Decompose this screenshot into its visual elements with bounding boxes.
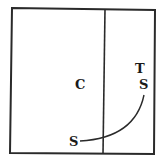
connecting-arc xyxy=(80,95,144,141)
label-t: T xyxy=(135,61,145,76)
diagram-canvas: C T S S xyxy=(0,0,161,164)
label-s-bottom: S xyxy=(69,134,78,149)
label-s-right: S xyxy=(139,77,148,92)
vertical-divider xyxy=(103,9,105,154)
label-c: C xyxy=(75,77,85,92)
